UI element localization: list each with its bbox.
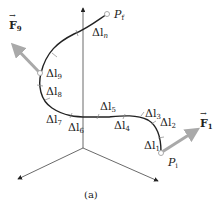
label-dl8: Δl8	[46, 86, 62, 99]
coordinate-axes	[18, 8, 158, 181]
label-dl9: Δl9	[46, 68, 62, 81]
figure-caption: (a)	[84, 190, 98, 200]
label-p-initial: Pi	[168, 157, 178, 170]
label-f1: F1	[200, 118, 213, 130]
point-9	[38, 71, 43, 76]
label-dl3: Δl3	[145, 108, 161, 121]
label-dl7: Δl7	[46, 114, 62, 127]
label-p-final: Pf	[114, 9, 124, 22]
label-dl4: Δl4	[114, 120, 130, 133]
force-arrow-f9	[15, 47, 40, 73]
force-arrow-f1	[162, 131, 195, 152]
label-dln: Δln	[92, 27, 108, 40]
left-axis	[18, 148, 83, 179]
point-final	[105, 12, 110, 17]
label-dl1: Δl1	[144, 140, 160, 153]
label-dl2: Δl2	[160, 117, 176, 130]
label-dl5: Δl5	[100, 101, 116, 114]
label-f9: F9	[9, 20, 22, 32]
label-dl6: Δl6	[68, 122, 84, 135]
